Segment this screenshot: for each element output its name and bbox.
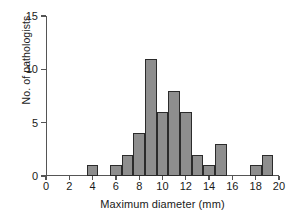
- x-tick-label: 8: [136, 181, 142, 192]
- x-tick-14: 14: [208, 176, 209, 180]
- x-tick-label: 14: [203, 181, 215, 192]
- x-axis-title: Maximum diameter (mm): [46, 198, 279, 210]
- x-tick-label: 10: [156, 181, 168, 192]
- histogram-bar: [203, 165, 215, 176]
- histogram-bar: [168, 91, 180, 176]
- histogram-bar: [250, 165, 262, 176]
- x-tick-10: 10: [162, 176, 163, 180]
- x-tick-0: 0: [45, 176, 46, 180]
- histogram-bar: [133, 133, 145, 176]
- histogram-bar: [110, 165, 122, 176]
- x-tick-8: 8: [139, 176, 140, 180]
- histogram-figure: No. of pathologists 051015 0246810121416…: [0, 0, 295, 219]
- clipped-caption-strip: [8, 214, 287, 219]
- histogram-bar: [145, 59, 157, 176]
- x-tick-20: 20: [278, 176, 279, 180]
- histogram-bar: [215, 144, 227, 176]
- x-tick-6: 6: [115, 176, 116, 180]
- plot-area: 051015 02468101214161820: [46, 16, 279, 176]
- x-tick-12: 12: [185, 176, 186, 180]
- x-tick-18: 18: [255, 176, 256, 180]
- x-tick-label: 0: [43, 181, 49, 192]
- histogram-bar: [262, 155, 274, 176]
- histogram-bars: [46, 16, 279, 176]
- y-tick-label: 5: [32, 117, 38, 128]
- x-tick-label: 2: [66, 181, 72, 192]
- histogram-bar: [87, 165, 99, 176]
- x-tick-16: 16: [232, 176, 233, 180]
- y-tick-label: 10: [26, 64, 38, 75]
- x-tick-2: 2: [69, 176, 70, 180]
- y-tick-label: 15: [26, 11, 38, 22]
- histogram-bar: [180, 112, 192, 176]
- histogram-bar: [157, 112, 169, 176]
- x-tick-4: 4: [92, 176, 93, 180]
- x-tick-label: 16: [226, 181, 238, 192]
- x-tick-label: 12: [180, 181, 192, 192]
- x-tick-label: 18: [250, 181, 262, 192]
- x-tick-label: 20: [273, 181, 285, 192]
- histogram-bar: [122, 155, 134, 176]
- histogram-bar: [192, 155, 204, 176]
- x-tick-label: 4: [90, 181, 96, 192]
- y-tick-label: 0: [32, 170, 38, 181]
- x-tick-label: 6: [113, 181, 119, 192]
